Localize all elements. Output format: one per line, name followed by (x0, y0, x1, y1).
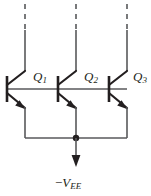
q3-label-main: Q (133, 69, 142, 84)
transistor-q3 (109, 71, 127, 138)
q1-collector-slant (7, 71, 25, 85)
transistor-label-q2: Q2 (84, 70, 98, 85)
q1-label-sub: 1 (42, 75, 47, 85)
supply-arrow (72, 138, 81, 167)
transistor-label-q1: Q1 (33, 70, 47, 85)
circuit-diagram: Q1 Q2 Q3 −VEE (0, 0, 151, 196)
circuit-schematic-canvas (0, 0, 151, 196)
q3-collector-slant (109, 71, 127, 85)
supply-subscript: EE (70, 181, 81, 191)
collector-dashed-terminals (25, 4, 127, 30)
transistor-q2 (58, 71, 76, 138)
q2-collector-slant (58, 71, 76, 85)
q3-label-sub: 3 (142, 75, 147, 85)
supply-arrowhead (72, 155, 81, 167)
collector-leads (25, 30, 127, 71)
q2-label-sub: 2 (93, 75, 98, 85)
supply-voltage-label: −VEE (55, 176, 81, 191)
transistor-label-q3: Q3 (133, 70, 147, 85)
q2-label-main: Q (84, 69, 93, 84)
q1-label-main: Q (33, 69, 42, 84)
transistor-q1 (7, 71, 25, 138)
